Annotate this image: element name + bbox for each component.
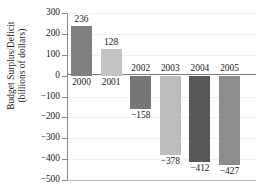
x-axis-label-2001: 2001	[91, 77, 131, 87]
y-axis-tick-mark	[62, 180, 67, 181]
bar-2005	[219, 76, 240, 165]
x-axis-line	[67, 180, 256, 181]
y-axis-tick-mark	[62, 55, 67, 56]
gridline	[67, 55, 256, 56]
y-axis-tick-label: −200	[0, 111, 60, 121]
y-axis-tick-mark	[62, 117, 67, 118]
y-axis-tick-mark	[62, 97, 67, 98]
y-axis-line	[67, 13, 68, 181]
bar-value-label-2002: −158	[121, 110, 161, 120]
y-axis-tick-label: −100	[0, 91, 60, 101]
y-axis-tick-label: 0	[0, 70, 60, 80]
y-axis-tick-label: 300	[0, 7, 60, 17]
y-axis-tick-mark	[62, 159, 67, 160]
bar-chart: Budget Surplus/Deficit (billions of doll…	[0, 0, 256, 196]
bar-value-label-2000: 236	[62, 14, 102, 24]
bar-2001	[101, 49, 122, 76]
bar-2004	[189, 76, 210, 162]
y-axis-tick-mark	[62, 34, 67, 35]
bar-value-label-2005: −427	[210, 166, 250, 176]
y-axis-tick-label: −500	[0, 174, 60, 184]
y-axis-tick-label: 100	[0, 49, 60, 59]
y-axis-tick-label: −300	[0, 132, 60, 142]
gridline	[67, 34, 256, 35]
y-axis-tick-label: 200	[0, 28, 60, 38]
bar-2002	[130, 76, 151, 109]
x-axis-label-2005: 2005	[210, 63, 250, 73]
y-axis-tick-label: −400	[0, 153, 60, 163]
bar-value-label-2001: 128	[91, 37, 131, 47]
bar-2000	[71, 26, 92, 75]
bar-2003	[160, 76, 181, 155]
y-axis-tick-mark	[62, 138, 67, 139]
